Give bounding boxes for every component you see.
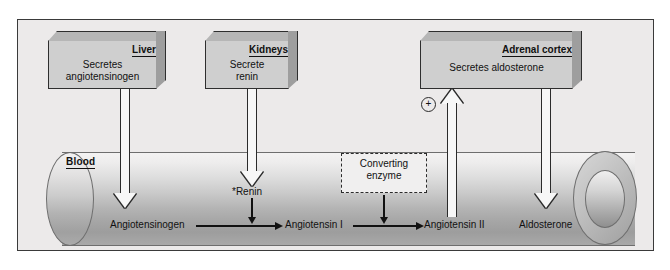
- label-aldosterone: Aldosterone: [519, 219, 572, 230]
- label-angiotensin-1: Angiotensin I: [285, 219, 343, 230]
- box-liver-top: [48, 31, 166, 41]
- arrow-shaft: [541, 89, 551, 194]
- arrow-head-up-icon: [441, 89, 463, 104]
- arrow-shaft: [247, 89, 257, 172]
- converting-enzyme-line2: enzyme: [342, 170, 426, 182]
- box-liver-side: [156, 31, 166, 89]
- reaction-arrow-angiotensin1-to-angiotensin2: [353, 225, 417, 227]
- arrow-liver-to-angiotensinogen: [113, 89, 137, 208]
- arrow-head-down-icon: [114, 193, 136, 208]
- converting-enzyme-line1: Converting: [342, 158, 426, 170]
- box-adrenal-top: [420, 31, 582, 41]
- box-liver-body: Secretes angiotensinogen: [48, 59, 157, 83]
- arrow-angiotensin2-to-adrenal: [440, 89, 464, 217]
- box-kidneys: Kidneys Secrete renin: [205, 31, 298, 89]
- box-kidneys-body: Secrete renin: [205, 59, 289, 83]
- box-liver: Liver Secretes angiotensinogen: [48, 31, 166, 89]
- box-adrenal-body-line1: Secretes aldosterone: [420, 62, 573, 74]
- box-kidneys-top: [205, 31, 298, 41]
- arrow-head-down-icon: [535, 193, 557, 208]
- arrow-adrenal-to-aldosterone: [534, 89, 558, 208]
- box-liver-body-line2: angiotensinogen: [48, 71, 157, 83]
- arrow-shaft: [120, 89, 130, 194]
- box-adrenal-side: [572, 31, 582, 89]
- arrow-head-down-icon: [241, 171, 263, 186]
- arrow-shaft: [447, 103, 457, 217]
- label-renin: *Renin: [232, 186, 262, 197]
- box-adrenal-cortex: Adrenal cortex Secretes aldosterone: [420, 31, 582, 89]
- label-angiotensinogen: Angiotensinogen: [110, 219, 185, 230]
- label-angiotensin-2: Angiotensin II: [424, 219, 485, 230]
- plus-sign-badge: +: [421, 97, 436, 112]
- arrow-kidneys-to-renin: [240, 89, 264, 186]
- diagram-canvas: Blood Liver Secretes angiotensinogen Kid…: [0, 0, 670, 270]
- blood-label: Blood: [66, 156, 95, 169]
- box-adrenal-title: Adrenal cortex: [502, 44, 572, 57]
- catalyst-arrow-converting-enzyme: [383, 195, 385, 218]
- box-kidneys-body-line2: renin: [205, 71, 289, 83]
- box-kidneys-title: Kidneys: [249, 44, 288, 57]
- box-adrenal-body: Secretes aldosterone: [420, 62, 573, 74]
- catalyst-arrow-renin: [251, 198, 253, 218]
- box-liver-title: Liver: [132, 44, 156, 57]
- reaction-arrow-angiotensinogen-to-angiotensin1: [196, 225, 276, 227]
- converting-enzyme-box: Converting enzyme: [341, 153, 427, 193]
- box-kidneys-side: [288, 31, 298, 89]
- vessel-opening-inner: [585, 170, 625, 228]
- box-kidneys-body-line1: Secrete: [205, 59, 289, 71]
- box-liver-body-line1: Secretes: [48, 59, 157, 71]
